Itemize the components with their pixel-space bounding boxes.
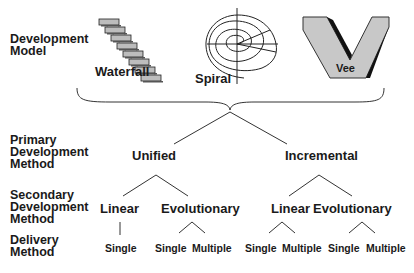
delivery-unified-evo-single: Single: [155, 242, 187, 254]
delivery-incr-evo-single: Single: [328, 242, 360, 254]
model-vee-label: Vee: [336, 62, 355, 74]
secondary-incremental-linear: Linear: [271, 201, 310, 216]
diagram-graphics: [0, 0, 414, 273]
delivery-incr-evo-multiple: Multiple: [366, 242, 406, 254]
delivery-incr-linear-single: Single: [245, 242, 277, 254]
secondary-unified-evolutionary: Evolutionary: [161, 201, 240, 216]
primary-incremental: Incremental: [285, 148, 358, 163]
primary-unified: Unified: [132, 148, 176, 163]
tree-connectors: [120, 112, 375, 235]
model-spiral-label: Spiral: [195, 71, 231, 86]
delivery-incr-linear-multiple: Multiple: [282, 242, 322, 254]
delivery-unified-linear-single: Single: [105, 242, 137, 254]
delivery-unified-evo-multiple: Multiple: [192, 242, 232, 254]
secondary-unified-linear: Linear: [100, 201, 139, 216]
model-waterfall-label: Waterfall: [95, 64, 149, 79]
secondary-incremental-evolutionary: Evolutionary: [313, 201, 392, 216]
brace: [77, 88, 384, 110]
